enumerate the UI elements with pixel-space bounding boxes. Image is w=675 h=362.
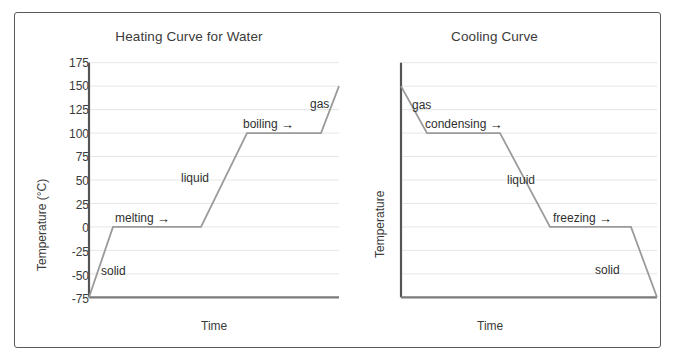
heating-label-liquid: liquid xyxy=(181,171,209,185)
heating-curve-panel: Heating Curve for Water Temperature (°C)… xyxy=(15,13,355,347)
heating-label-boiling: boiling → xyxy=(243,117,294,131)
heating-curve-line xyxy=(89,86,339,297)
cooling-label-freezing: freezing → xyxy=(553,211,612,225)
heating-label-gas: gas xyxy=(310,97,329,111)
cooling-label-gas: gas xyxy=(412,98,431,112)
figure-frame: Heating Curve for Water Temperature (°C)… xyxy=(14,12,661,348)
heating-gridlines xyxy=(89,63,339,274)
cooling-label-condensing: condensing → xyxy=(425,117,502,131)
cooling-curve-panel: Cooling Curve Temperature Time gas co xyxy=(355,13,662,347)
melting-text: melting xyxy=(115,211,154,225)
heating-label-melting: melting → xyxy=(115,211,170,225)
freezing-arrow-icon: → xyxy=(599,212,612,225)
cooling-gridlines xyxy=(401,63,657,274)
cooling-label-liquid: liquid xyxy=(507,173,535,187)
boiling-arrow-icon: → xyxy=(281,118,294,131)
condensing-text: condensing xyxy=(425,117,486,131)
freezing-text: freezing xyxy=(553,211,596,225)
cooling-label-solid: solid xyxy=(595,263,620,277)
boiling-text: boiling xyxy=(243,117,278,131)
melting-arrow-icon: → xyxy=(157,212,170,225)
condensing-arrow-icon: → xyxy=(489,118,502,131)
heating-label-solid: solid xyxy=(101,264,126,278)
